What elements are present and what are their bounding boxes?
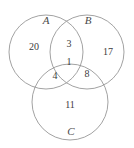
region-count-a-only: 20 bbox=[29, 42, 39, 52]
set-label-a: A bbox=[43, 15, 50, 26]
region-count-b-only: 17 bbox=[103, 47, 113, 57]
set-label-c: C bbox=[67, 126, 74, 137]
set-circle-a bbox=[9, 15, 83, 89]
region-count-b-and-c: 8 bbox=[85, 69, 90, 79]
region-count-c-only: 11 bbox=[65, 100, 75, 110]
set-label-b: B bbox=[85, 15, 92, 26]
region-count-a-and-c: 4 bbox=[53, 71, 58, 81]
region-count-a-b-c: 1 bbox=[67, 57, 72, 67]
venn-diagram: A B C 20 3 17 1 4 8 11 bbox=[0, 0, 134, 148]
region-count-a-and-b: 3 bbox=[67, 39, 72, 49]
